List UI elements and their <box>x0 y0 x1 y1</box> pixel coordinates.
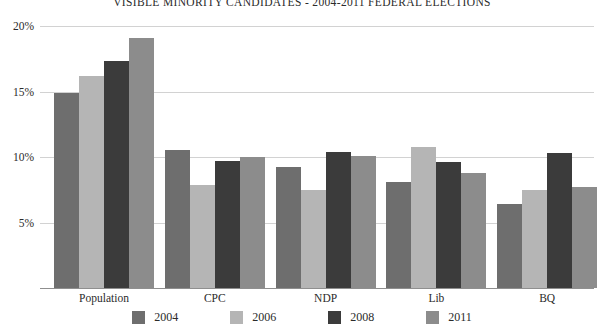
bar-group <box>165 26 265 288</box>
legend-swatch-icon <box>230 311 243 324</box>
plot-area <box>40 26 594 288</box>
bar <box>54 93 79 288</box>
bar <box>165 150 190 288</box>
bar <box>497 204 522 288</box>
x-tick-label: CPC <box>204 292 226 304</box>
x-tick-label: NDP <box>314 292 337 304</box>
bar <box>522 190 547 288</box>
bar <box>411 147 436 288</box>
legend-item[interactable]: 2004 <box>132 310 178 325</box>
bar <box>351 156 376 288</box>
legend-label: 2004 <box>154 310 178 325</box>
legend-item[interactable]: 2006 <box>230 310 276 325</box>
y-tick-label: 10% <box>0 151 34 163</box>
legend-item[interactable]: 2008 <box>328 310 374 325</box>
axis-baseline <box>40 288 594 289</box>
bar <box>301 190 326 288</box>
bar-group <box>54 26 154 288</box>
bar-group <box>497 26 597 288</box>
y-tick-label: 5% <box>0 217 34 229</box>
legend-label: 2006 <box>252 310 276 325</box>
bar <box>129 38 154 288</box>
chart-container: VISIBLE MINORITY CANDIDATES - 2004-2011 … <box>0 0 604 329</box>
bar <box>572 187 597 288</box>
bar <box>79 76 104 288</box>
bar-group <box>386 26 486 288</box>
bar <box>104 61 129 288</box>
bar <box>547 153 572 288</box>
legend-label: 2011 <box>448 310 472 325</box>
bar <box>276 167 301 288</box>
bar-group <box>276 26 376 288</box>
bar <box>461 173 486 288</box>
bar <box>240 157 265 288</box>
bar <box>190 185 215 288</box>
bar <box>326 152 351 288</box>
x-tick-label: BQ <box>539 292 555 304</box>
chart-legend: 2004200620082011 <box>0 310 604 325</box>
x-tick-label: Population <box>79 292 129 304</box>
y-tick-label: 20% <box>0 20 34 32</box>
y-tick-label: 15% <box>0 86 34 98</box>
chart-title: VISIBLE MINORITY CANDIDATES - 2004-2011 … <box>0 0 604 8</box>
bar <box>436 162 461 288</box>
legend-swatch-icon <box>132 311 145 324</box>
legend-swatch-icon <box>426 311 439 324</box>
bar <box>215 161 240 288</box>
x-tick-label: Lib <box>428 292 444 304</box>
legend-label: 2008 <box>350 310 374 325</box>
legend-item[interactable]: 2011 <box>426 310 472 325</box>
bar <box>386 182 411 288</box>
legend-swatch-icon <box>328 311 341 324</box>
